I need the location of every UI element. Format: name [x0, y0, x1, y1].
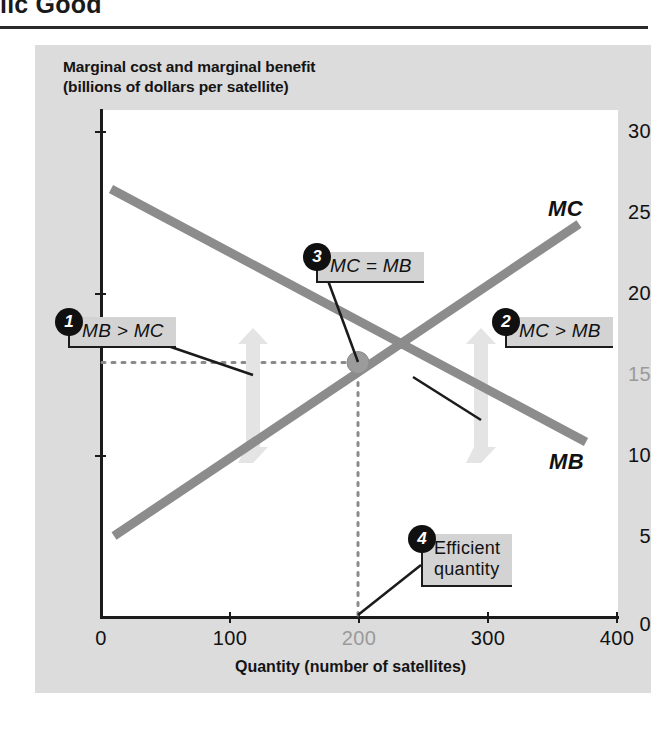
x-tick-300: [487, 612, 489, 623]
callout-4-badge: 4: [408, 525, 436, 553]
x-axis-title: Quantity (number of satellites): [235, 658, 466, 676]
y-tick-10: [95, 455, 106, 457]
figure-page: lic Good Marginal cost and marginal bene…: [0, 0, 668, 730]
callout-1-badge: 1: [55, 308, 83, 336]
callout-2-badge: 2: [492, 308, 520, 336]
callout-3-box: MC = MB: [316, 252, 424, 283]
y-axis-line: [100, 109, 103, 619]
y-tick-label-20: 20: [607, 282, 651, 305]
callout-3-badge: 3: [303, 243, 331, 271]
callout-2-box: MC > MB: [505, 317, 613, 348]
y-tick-label-10: 10: [607, 444, 651, 467]
y-tick-20: [95, 293, 106, 295]
mb-curve-label: MB: [549, 449, 584, 475]
x-tick-label-300: 300: [458, 627, 518, 650]
y-axis-title: Marginal cost and marginal benefit (bill…: [63, 57, 315, 97]
x-tick-100: [229, 612, 231, 623]
callout-1-box: MB > MC: [68, 317, 176, 348]
y-tick-label-5: 5: [607, 525, 651, 548]
y-tick-label-30: 30: [607, 120, 651, 143]
x-tick-label-0: 0: [71, 627, 131, 650]
y-tick-label-25: 25: [607, 201, 651, 224]
header-divider: [0, 26, 648, 29]
x-tick-400: [616, 612, 618, 623]
plot-area: [101, 110, 618, 617]
mc-curve-label: MC: [548, 196, 583, 222]
x-tick-label-400: 400: [587, 627, 647, 650]
page-header-title: lic Good: [0, 0, 102, 19]
y-tick-30: [95, 131, 106, 133]
figure-panel: Marginal cost and marginal benefit (bill…: [35, 45, 651, 693]
y-tick-label-15: 15: [607, 363, 651, 386]
x-tick-label-100: 100: [200, 627, 260, 650]
x-tick-label-200: 200: [329, 627, 389, 650]
x-tick-200: [358, 612, 360, 623]
